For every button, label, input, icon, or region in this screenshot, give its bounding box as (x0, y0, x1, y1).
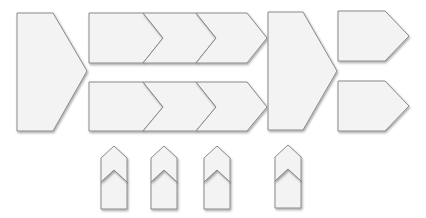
big-left-pentagon-shape (17, 13, 87, 131)
right-bottom-pentagon-shape (338, 81, 409, 131)
big-right-pentagon-shape (268, 12, 337, 130)
right-top-pentagon-shape (338, 11, 409, 61)
chevron-diagram (0, 0, 426, 218)
